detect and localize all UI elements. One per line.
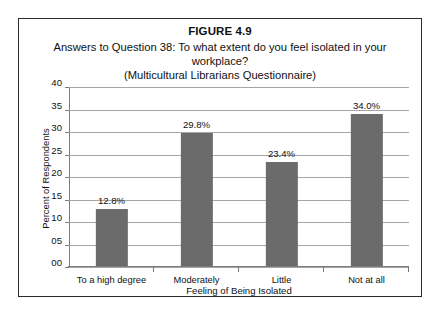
x-axis-tick [153, 267, 154, 272]
bar[interactable] [95, 209, 127, 267]
x-axis-category-label: To a high degree [77, 275, 146, 285]
bar-value-label: 34.0% [353, 100, 380, 111]
x-axis-category-label: Not at all [348, 275, 385, 285]
x-axis-line [68, 266, 409, 267]
bar-category-slot: 23.4%Little [239, 87, 324, 267]
plot-area: 000510152025303540 12.8%To a high degree… [69, 87, 409, 267]
x-axis-title: Feeling of Being Isolated [69, 285, 409, 296]
y-axis-tick-label: 25 [51, 150, 62, 151]
bar[interactable] [350, 114, 382, 267]
figure-subtitle-line-1: Answers to Question 38: To what extent d… [19, 40, 421, 68]
x-axis-category-label: Little [272, 275, 292, 285]
y-axis-title: Percent of Respondents [40, 99, 51, 259]
y-axis-tick [65, 267, 69, 268]
x-axis-tick [238, 267, 239, 272]
y-axis-tick-label: 40 [51, 82, 62, 83]
y-axis-tick-label: 30 [51, 127, 62, 128]
bar-category-slot: 34.0%Not at all [324, 87, 409, 267]
figure-title: FIGURE 4.9 [19, 25, 421, 37]
bar-category-slot: 12.8%To a high degree [69, 87, 154, 267]
bar[interactable] [180, 133, 212, 267]
y-axis-tick-label: 10 [51, 217, 62, 218]
chart-area: Percent of Respondents 00051015202530354… [19, 81, 421, 296]
x-axis-category-label: Moderately [174, 275, 220, 285]
y-axis-tick-label: 00 [51, 262, 62, 263]
y-axis-tick-label: 15 [51, 195, 62, 196]
bar-value-label: 23.4% [268, 148, 295, 159]
y-axis-tick-label: 35 [51, 105, 62, 106]
x-axis-tick [408, 267, 409, 272]
bar[interactable] [265, 162, 297, 267]
bars-layer: 12.8%To a high degree29.8%Moderately23.4… [69, 87, 409, 267]
figure-frame: FIGURE 4.9 Answers to Question 38: To wh… [18, 18, 422, 297]
y-axis-tick-label: 20 [51, 172, 62, 173]
x-axis-tick [323, 267, 324, 272]
bar-value-label: 12.8% [98, 195, 125, 206]
figure-subtitle-line-2: (Multicultural Librarians Questionnaire) [19, 68, 421, 82]
gridline [69, 267, 409, 268]
bar-value-label: 29.8% [183, 119, 210, 130]
bar-category-slot: 29.8%Moderately [154, 87, 239, 267]
y-axis-tick-label: 05 [51, 240, 62, 241]
